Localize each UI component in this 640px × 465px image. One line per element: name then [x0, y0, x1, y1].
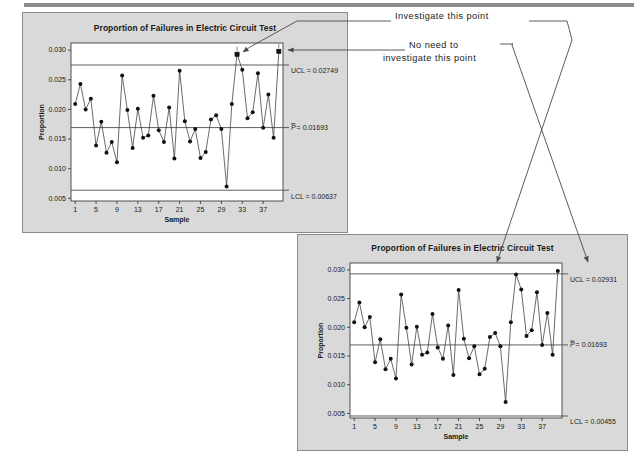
chart-2-xtick-label: 33 [517, 423, 525, 430]
chart-1-lcl-label: LCL = 0.00637 [291, 193, 337, 200]
chart-2-point [493, 331, 497, 335]
chart-1-xtick-label: 9 [115, 206, 119, 213]
chart-1-ytick-label: 0.005 [48, 195, 66, 202]
chart-1-point [136, 107, 140, 111]
chart-1-ytick-label: 0.030 [48, 46, 66, 53]
chart-1-point-ooc [277, 49, 281, 53]
svg-text:= 0.01693: = 0.01693 [576, 341, 607, 348]
chart-2-xtick-label: 17 [434, 423, 442, 430]
chart-1-point [240, 68, 244, 72]
chart-2-xtick-label: 37 [538, 423, 546, 430]
svg-text:P: P [291, 124, 296, 131]
leader-noneed-right [512, 44, 588, 262]
annotation-no-need-line2: investigate this point [383, 53, 476, 63]
header-rule [24, 3, 634, 7]
chart-1-point [89, 97, 93, 101]
chart-1-plot: 0.0050.0100.0150.0200.0250.0301591317212… [38, 43, 338, 224]
chart-2-point [399, 293, 403, 297]
chart-2-ytick-label: 0.005 [327, 410, 345, 417]
chart-1-point [183, 119, 187, 123]
chart-2-xtick-label: 25 [476, 423, 484, 430]
chart-2-point [404, 326, 408, 330]
chart-2-ytick-label: 0.030 [327, 266, 345, 273]
chart-2-ytick-label: 0.020 [327, 324, 345, 331]
chart-2-point [352, 320, 356, 324]
chart-1-point [209, 117, 213, 121]
chart-1-xtick-label: 25 [197, 206, 205, 213]
chart-1-point [141, 136, 145, 140]
chart-2-point [446, 324, 450, 328]
chart-1-point [272, 136, 276, 140]
chart-2-yaxis-label: Proportion [317, 323, 325, 359]
chart-2-xtick-label: 13 [413, 423, 421, 430]
chart-2-xtick-label: 5 [373, 423, 377, 430]
chart-2-point [457, 288, 461, 292]
chart-1-point [131, 146, 135, 150]
chart-1-point-ooc [235, 52, 239, 56]
chart-2-point [540, 343, 544, 347]
chart-2-point [415, 325, 419, 329]
chart-1-point [251, 110, 255, 114]
chart-2-point [368, 315, 372, 319]
chart-2-xtick-label: 29 [496, 423, 504, 430]
chart-1-point [230, 102, 234, 106]
chart-2-point [451, 373, 455, 377]
chart-1-center-label: P= 0.01693 [291, 124, 328, 131]
chart-1-point [110, 140, 114, 144]
chart-2-point [535, 290, 539, 294]
chart-2-xaxis-label: Sample [444, 433, 469, 441]
chart-2-point [363, 325, 367, 329]
chart-2-ytick-label: 0.010 [327, 381, 345, 388]
chart-1-point [120, 74, 124, 78]
chart-1-point [115, 160, 119, 164]
chart-1-point [94, 144, 98, 148]
chart-1-ytick-label: 0.020 [48, 106, 66, 113]
chart-2-point [378, 337, 382, 341]
chart-1-point [188, 139, 192, 143]
leader-investigate-right [497, 21, 572, 262]
chart-1-point [193, 127, 197, 131]
chart-2-ytick-label: 0.015 [327, 352, 345, 359]
chart-2-point [530, 328, 534, 332]
chart-2-point [504, 400, 508, 404]
chart-1-point [198, 156, 202, 160]
chart-1-xtick-label: 1 [73, 206, 77, 213]
chart-1-point [245, 116, 249, 120]
chart-1-point [78, 82, 82, 86]
chart-1-xtick-label: 33 [238, 206, 246, 213]
chart-2-point [556, 269, 560, 273]
annotation-no-need-line1: No need to [409, 40, 458, 50]
chart-2-point [441, 357, 445, 361]
chart-1-point [261, 126, 265, 130]
chart-1-xtick-label: 21 [176, 206, 184, 213]
chart-2-ucl-label: UCL = 0.02931 [570, 276, 617, 283]
chart-1-xtick-label: 13 [134, 206, 142, 213]
chart-1-yaxis-label: Proportion [38, 104, 46, 140]
chart-2-point [410, 363, 414, 367]
chart-2-xtick-label: 21 [455, 423, 463, 430]
chart-1-canvas: 0.0050.0100.0150.0200.0250.0301591317212… [23, 13, 347, 232]
chart-1-point [172, 157, 176, 161]
chart-1-point [152, 94, 156, 98]
chart-1-xaxis-label: Sample [165, 216, 190, 224]
chart-1-point [73, 102, 77, 106]
chart-2-point [477, 372, 481, 376]
chart-2-point [462, 337, 466, 341]
chart-2-point [519, 287, 523, 291]
control-chart-panel-1: Proportion of Failures in Electric Circu… [22, 12, 348, 233]
chart-2-point [472, 344, 476, 348]
chart-2-canvas: 0.0050.0100.0150.0200.0250.0301591317212… [298, 235, 627, 450]
chart-1-point [266, 93, 270, 97]
chart-1-point [157, 128, 161, 132]
chart-2-xtick-label: 1 [352, 423, 356, 430]
chart-1-xtick-label: 37 [259, 206, 267, 213]
chart-2-center-label: P= 0.01693 [570, 341, 607, 348]
chart-2-point [420, 353, 424, 357]
chart-1-point [225, 184, 229, 188]
chart-2-xtick-label: 9 [394, 423, 398, 430]
chart-2-point [394, 376, 398, 380]
chart-2-point [431, 312, 435, 316]
chart-1-point [125, 108, 129, 112]
annotation-investigate-this-point: Investigate this point [395, 11, 489, 21]
chart-2-point [384, 367, 388, 371]
